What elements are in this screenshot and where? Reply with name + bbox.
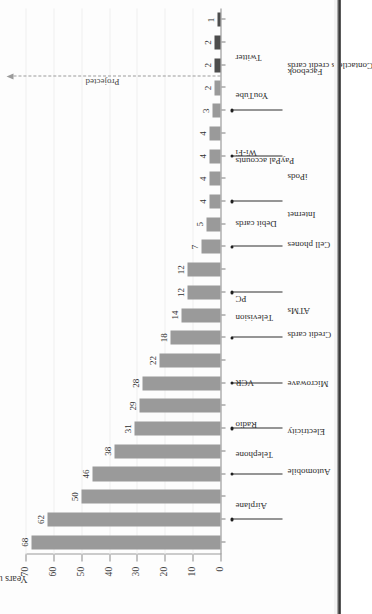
- y-tick-label: 10: [186, 566, 196, 614]
- leader-line: [231, 245, 282, 246]
- y-axis-title: Years until 50 million users: [0, 573, 27, 584]
- leader-line: [231, 382, 282, 383]
- bar-fill: [92, 466, 220, 480]
- bar-fill: [209, 126, 220, 140]
- bar-value-label: 38: [102, 446, 112, 455]
- bar-value-label: 3: [200, 108, 210, 113]
- leader-dot: [230, 154, 233, 157]
- leader-line: [231, 427, 282, 428]
- category-label: YouTube: [235, 91, 268, 101]
- bar-fill: [187, 262, 220, 276]
- y-tick: [164, 554, 165, 561]
- bar-fill: [209, 149, 220, 163]
- category-label: Twitter: [235, 52, 261, 62]
- bar: 12: [187, 262, 220, 276]
- y-tick-label: 30: [130, 566, 140, 614]
- category-label: Internet: [287, 209, 315, 219]
- bar-fill: [187, 285, 220, 299]
- x-tick: [221, 223, 225, 224]
- x-tick: [221, 450, 225, 451]
- x-tick: [221, 268, 225, 269]
- bar: 68: [31, 535, 220, 549]
- bar-value-label: 18: [158, 333, 168, 342]
- x-tick: [221, 314, 225, 315]
- leader-line: [231, 291, 282, 292]
- bar: 4: [209, 194, 220, 208]
- bar: 62: [47, 512, 220, 526]
- x-tick: [221, 132, 225, 133]
- leader-line: [231, 109, 282, 110]
- leader-line: [231, 155, 282, 156]
- x-tick: [221, 336, 225, 337]
- leader-line: [231, 518, 282, 519]
- bar-fill: [139, 398, 220, 412]
- leader-dot: [230, 381, 233, 384]
- bar-series: 6862504638312928221814121275444432221: [25, 8, 220, 553]
- bar-fill: [81, 489, 220, 503]
- bar-fill: [201, 239, 221, 253]
- x-tick: [221, 541, 225, 542]
- leader-line: [231, 473, 282, 474]
- category-label: Telephone: [235, 449, 272, 459]
- bar-value-label: 46: [80, 469, 90, 478]
- bar-value-label: 29: [127, 401, 137, 410]
- bar: 3: [212, 103, 220, 117]
- x-tick: [221, 18, 225, 19]
- bar-value-label: 5: [194, 222, 204, 227]
- x-tick: [221, 200, 225, 201]
- leader-dot: [230, 472, 233, 475]
- bar-fill: [217, 12, 220, 26]
- bar: 18: [170, 330, 220, 344]
- bar-value-label: 14: [169, 310, 179, 319]
- bar: 46: [92, 466, 220, 480]
- bar: 31: [134, 421, 220, 435]
- leader-dot: [230, 426, 233, 429]
- category-label: Credit cards: [287, 329, 331, 339]
- bar: 12: [187, 285, 220, 299]
- category-label: Automobile: [287, 466, 330, 476]
- x-tick: [221, 518, 225, 519]
- bar-value-label: 28: [130, 378, 140, 387]
- bar-value-label: 68: [19, 537, 29, 546]
- x-tick: [221, 404, 225, 405]
- bar: 14: [181, 308, 220, 322]
- x-tick: [221, 86, 225, 87]
- category-label: Wi-Fi: [235, 148, 256, 158]
- leader-dot: [230, 517, 233, 520]
- category-label: Microwave: [287, 378, 328, 388]
- bar-fill: [134, 421, 220, 435]
- y-tick-label: 0: [214, 566, 224, 614]
- bar-fill: [170, 330, 220, 344]
- leader-line: [231, 200, 282, 201]
- leader-dot: [230, 245, 233, 248]
- y-tick: [192, 554, 193, 561]
- leader-dot: [230, 199, 233, 202]
- category-label: PC: [235, 294, 246, 304]
- bar: 1: [217, 12, 220, 26]
- bar: 2: [214, 35, 220, 49]
- x-tick: [221, 291, 225, 292]
- bar-value-label: 4: [197, 176, 207, 181]
- category-label: Television: [235, 313, 272, 323]
- x-tick: [221, 245, 225, 246]
- y-tick: [81, 554, 82, 561]
- x-tick: [221, 427, 225, 428]
- bar: 4: [209, 149, 220, 163]
- bar: 29: [139, 398, 220, 412]
- bar-value-label: 4: [197, 153, 207, 158]
- leader-dot: [230, 290, 233, 293]
- y-tick-label: 50: [75, 566, 85, 614]
- category-label: ATMs: [287, 305, 310, 315]
- x-tick: [221, 473, 225, 474]
- y-tick: [109, 554, 110, 561]
- bar-value-label: 22: [147, 356, 157, 365]
- bar-value-label: 12: [175, 287, 185, 296]
- bar-value-label: 4: [197, 131, 207, 136]
- bar-value-label: 7: [189, 244, 199, 249]
- bar-value-label: 4: [197, 199, 207, 204]
- bar: 22: [159, 353, 220, 367]
- x-tick: [221, 177, 225, 178]
- y-tick: [53, 554, 54, 561]
